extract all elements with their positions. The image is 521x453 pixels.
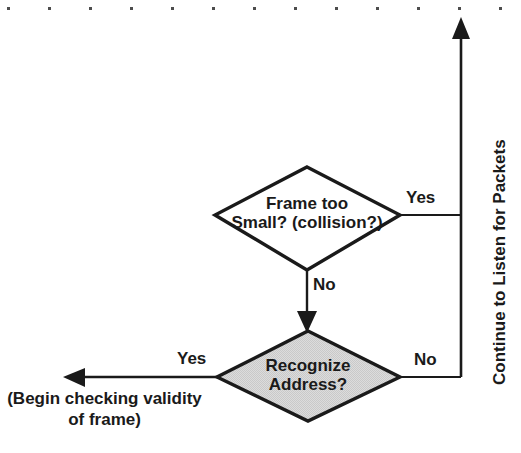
exit-path-arrowhead-icon	[63, 368, 85, 387]
exit-caption-line1: (Begin checking validity	[2, 389, 207, 410]
exit-caption: (Begin checking validity of frame)	[2, 389, 207, 430]
edge-label-frame-small-yes: Yes	[406, 188, 435, 208]
flowchart-graphics	[0, 0, 521, 453]
edge-label-recognize-no: No	[414, 350, 437, 370]
exit-caption-line2: of frame)	[2, 410, 207, 431]
top-dot-row	[7, 7, 502, 10]
return-path-annotation: Continue to Listen for Packets	[490, 139, 510, 385]
flowchart-canvas: Frame too Small? (collision?) Recognize …	[0, 0, 521, 453]
edge-label-frame-small-no: No	[313, 275, 336, 295]
decision-recognize-address-shape[interactable]	[217, 331, 400, 421]
edge-label-recognize-yes: Yes	[177, 349, 206, 369]
decision-frame-too-small-shape[interactable]	[215, 167, 400, 270]
return-path-arrowhead-icon	[452, 17, 470, 39]
